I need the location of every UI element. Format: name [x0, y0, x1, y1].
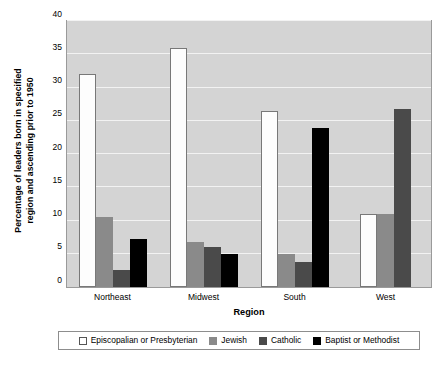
- x-tick-label: South: [249, 292, 340, 302]
- y-tick-label: 5: [38, 242, 62, 251]
- legend-swatch-icon: [79, 337, 87, 345]
- y-axis-label-line2: region and ascending prior to 1950: [24, 68, 36, 232]
- y-tick-label: 0: [38, 276, 62, 285]
- legend-swatch-icon: [259, 337, 267, 345]
- legend-item[interactable]: Baptist or Methodist: [313, 336, 399, 345]
- bar: [221, 254, 238, 287]
- bar: [312, 128, 329, 287]
- bar: [360, 214, 377, 287]
- y-tick-label: 15: [38, 176, 62, 185]
- x-axis-ticks: NortheastMidwestSouthWest: [67, 292, 431, 302]
- y-tick-label: 10: [38, 209, 62, 218]
- bar-group: [249, 21, 340, 287]
- y-tick-label: 20: [38, 143, 62, 152]
- bar: [204, 247, 221, 287]
- chart-legend: Episcopalian or PresbyterianJewishCathol…: [58, 331, 420, 350]
- bar-groups: [67, 21, 431, 287]
- legend-item[interactable]: Catholic: [259, 336, 301, 345]
- bar: [377, 214, 394, 287]
- legend-item[interactable]: Jewish: [209, 336, 247, 345]
- y-tick-label: 25: [38, 109, 62, 118]
- x-tick-label: West: [340, 292, 431, 302]
- y-tick-label: 30: [38, 76, 62, 85]
- bar-chart: Percentage of leaders born in specified …: [0, 0, 447, 365]
- bar: [278, 254, 295, 287]
- legend-label: Episcopalian or Presbyterian: [91, 336, 198, 345]
- bar: [187, 242, 204, 287]
- y-tick-label: 35: [38, 43, 62, 52]
- bar: [394, 109, 411, 287]
- bar: [130, 239, 147, 287]
- bar-group: [340, 21, 431, 287]
- x-tick-label: Northeast: [67, 292, 158, 302]
- bar: [79, 74, 96, 287]
- bar: [261, 111, 278, 287]
- y-tick-label: 40: [38, 10, 62, 19]
- bar: [96, 217, 113, 287]
- legend-swatch-icon: [313, 337, 321, 345]
- bar-group: [158, 21, 249, 287]
- bar-group: [67, 21, 158, 287]
- legend-swatch-icon: [209, 337, 217, 345]
- x-axis-label: Region: [67, 307, 431, 317]
- y-axis-label-line1: Percentage of leaders born in specified: [13, 68, 23, 232]
- x-tick-label: Midwest: [158, 292, 249, 302]
- bar: [113, 270, 130, 287]
- legend-label: Catholic: [271, 336, 301, 345]
- legend-label: Baptist or Methodist: [325, 336, 399, 345]
- bar: [295, 262, 312, 287]
- bar: [170, 48, 187, 287]
- y-axis-ticks: 0510152025303540: [36, 20, 62, 288]
- legend-item[interactable]: Episcopalian or Presbyterian: [79, 336, 198, 345]
- legend-label: Jewish: [221, 336, 247, 345]
